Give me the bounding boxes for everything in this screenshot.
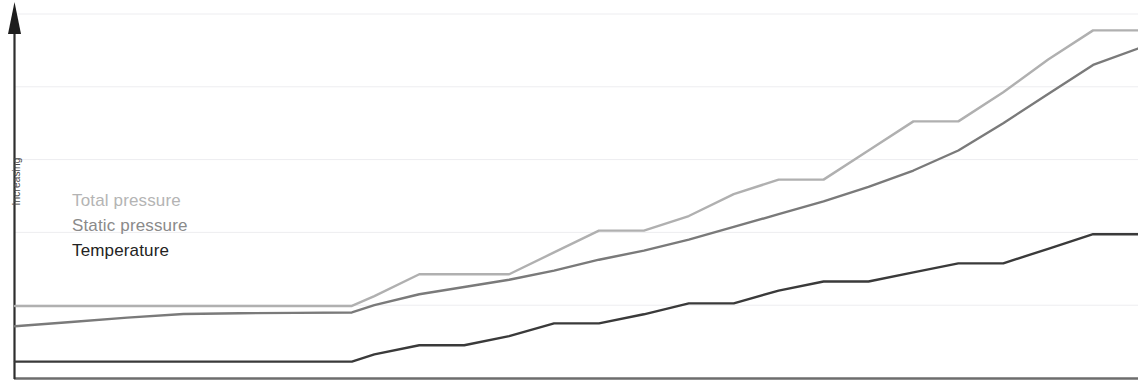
series-line-static-pressure xyxy=(15,49,1138,327)
y-axis-arrowhead xyxy=(8,2,21,34)
chart-container: Increasing Total pressure Static pressur… xyxy=(0,0,1138,386)
chart-legend: Total pressure Static pressure Temperatu… xyxy=(72,189,188,262)
legend-item-temperature: Temperature xyxy=(72,239,188,262)
y-axis-label: Increasing xyxy=(11,142,22,222)
legend-item-total-pressure: Total pressure xyxy=(72,189,188,212)
legend-item-static-pressure: Static pressure xyxy=(72,214,188,237)
